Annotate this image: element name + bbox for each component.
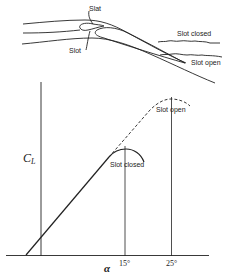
slat-label: Slat bbox=[89, 5, 101, 12]
slat-shape bbox=[80, 23, 104, 30]
slot-closed-wake-label: Slot closed bbox=[177, 30, 211, 37]
slot-leader bbox=[86, 31, 90, 50]
streamline-middle bbox=[23, 30, 80, 33]
tick-25: 25° bbox=[166, 259, 177, 268]
slot-open-curve-label: Slot open bbox=[156, 106, 186, 114]
wake-slot-closed bbox=[158, 41, 220, 43]
slat-leader bbox=[89, 11, 93, 24]
slot-closed-curve-label: Slot closed bbox=[110, 161, 144, 168]
slot-open-wake-label: Slot open bbox=[191, 59, 221, 67]
airfoil-upper bbox=[97, 28, 185, 63]
lift-line-linear bbox=[26, 157, 109, 255]
streamline-lower bbox=[22, 38, 215, 83]
tick-15: 15° bbox=[119, 259, 130, 268]
y-axis-label: CL bbox=[23, 151, 36, 166]
slotted-wing-diagram: Slat Slot Slot closed Slot open CL α 15°… bbox=[0, 0, 235, 277]
x-axis-label: α bbox=[104, 262, 111, 274]
slot-label: Slot bbox=[69, 47, 81, 54]
airfoil-lower bbox=[95, 30, 185, 63]
airfoil-illustration bbox=[22, 11, 222, 83]
